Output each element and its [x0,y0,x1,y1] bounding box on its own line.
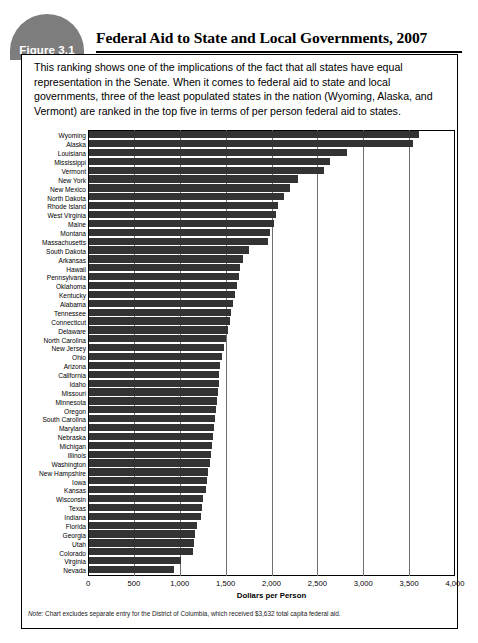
x-axis-tick-label: 3,500 [400,579,419,588]
bar [89,326,228,333]
y-axis-category-label: California [58,372,86,379]
y-axis-category-label: Iowa [72,478,86,485]
bar-row: Wisconsin [89,495,454,504]
bar [89,504,202,511]
bar-row: North Dakota [89,193,454,202]
y-axis-category-label: Indiana [64,514,86,521]
bar-row: Nebraska [89,433,454,442]
page-title: Federal Aid to State and Local Governmen… [96,29,427,47]
bar-row: West Virginia [89,211,454,220]
bar-row: Florida [89,522,454,531]
bar-row: Washington [89,459,454,468]
y-axis-category-label: New Hampshire [39,469,86,476]
y-axis-category-label: Pennsylvania [47,274,86,281]
figure-caption: This ranking shows one of the implicatio… [34,60,444,118]
bar [89,468,208,475]
title-divider [96,51,462,53]
bar-row: Rhode Island [89,202,454,211]
bar [89,380,219,387]
plot-area: WyomingAlaskaLouisianaMississippiVermont… [88,130,455,576]
bar-row: Michigan [89,442,454,451]
bar [89,220,274,227]
bar [89,522,197,529]
y-axis-category-label: Colorado [59,549,86,556]
bar [89,202,278,209]
y-axis-category-label: Alaska [66,141,86,148]
y-axis-category-label: Oregon [64,407,86,414]
y-axis-category-label: Alabama [60,301,86,308]
bar [89,388,218,395]
bar-row: New Jersey [89,344,454,353]
bar-row: Pennsylvania [89,273,454,282]
bar [89,459,210,466]
bar [89,246,249,253]
x-axis-tick-label: 2,500 [308,579,327,588]
bar-row: California [89,371,454,380]
bar [89,344,224,351]
bar [89,282,237,289]
bar-row: Oklahoma [89,282,454,291]
bar-row: New Mexico [89,184,454,193]
bar [89,211,276,218]
y-axis-category-label: Kansas [64,487,86,494]
bar-row: Mississippi [89,158,454,167]
bar [89,371,219,378]
bar-row: Colorado [89,548,454,557]
bar [89,229,270,236]
bar-row: Arizona [89,362,454,371]
y-axis-category-label: Minnesota [56,398,86,405]
x-axis-tick-label: 500 [128,579,141,588]
bar-row: North Carolina [89,335,454,344]
bar [89,309,231,316]
x-axis-tick-label: 0 [86,579,90,588]
bar-row: Montana [89,229,454,238]
bar-row: Hawaii [89,264,454,273]
y-axis-category-label: Connecticut [51,318,86,325]
bar [89,273,239,280]
bar [89,433,213,440]
bar [89,175,298,182]
bar-row: Ohio [89,353,454,362]
y-axis-category-label: Rhode Island [47,203,86,210]
bar-row: Nevada [89,566,454,575]
bar-row: Maine [89,220,454,229]
bar [89,548,193,555]
y-axis-category-label: North Dakota [47,194,86,201]
bar [89,362,220,369]
bar [89,335,226,342]
y-axis-category-label: New York [58,176,86,183]
bar [89,557,181,564]
y-axis-category-label: New Jersey [52,345,86,352]
y-axis-category-label: Nebraska [58,434,86,441]
y-axis-category-label: Hawaii [66,265,86,272]
bar [89,140,413,147]
bar [89,317,230,324]
y-axis-category-label: Missouri [61,389,86,396]
bar-row: Louisiana [89,149,454,158]
bar [89,451,211,458]
bar-row: Alabama [89,300,454,309]
bar-row: Minnesota [89,397,454,406]
figure-note: Note: Chart excludes separate entry for … [28,609,448,618]
y-axis-category-label: Utah [72,540,86,547]
figure-note-text: Chart excludes separate entry for the Di… [43,610,340,617]
figure-note-prefix: Note: [28,610,43,617]
y-axis-category-label: Arizona [64,363,86,370]
bar-row: Wyoming [89,131,454,140]
bar [89,397,217,404]
bar-row: Texas [89,504,454,513]
bar [89,255,243,262]
y-axis-category-label: Washington [51,460,86,467]
y-axis-category-label: New Mexico [50,185,86,192]
bar [89,291,235,298]
bar [89,353,222,360]
y-axis-category-label: Ohio [72,354,86,361]
bar [89,300,233,307]
bar-row: South Dakota [89,246,454,255]
y-axis-category-label: Wisconsin [56,496,86,503]
y-axis-category-label: Kentucky [59,292,86,299]
y-axis-category-label: Vermont [61,167,86,174]
bar-row: South Carolina [89,415,454,424]
bar-row: Tennessee [89,309,454,318]
y-axis-category-label: Tennessee [54,309,86,316]
